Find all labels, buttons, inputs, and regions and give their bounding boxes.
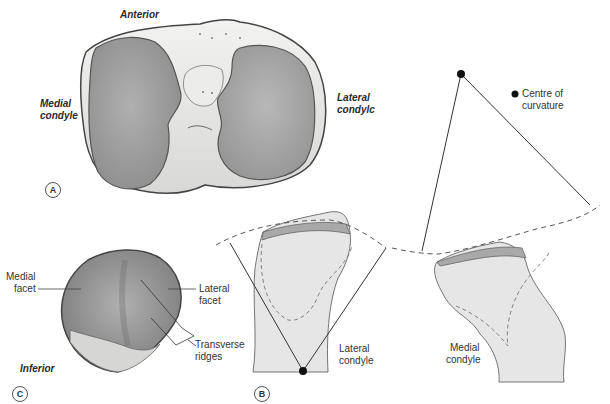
legend-centre-of-curvature-l1: Centre of — [522, 88, 563, 100]
panel-label-c: C — [12, 386, 28, 402]
legend-centre-of-curvature-l2: curvature — [522, 100, 564, 112]
inferior-label: Inferior — [20, 363, 54, 375]
lateral-facet-label-l2: facet — [199, 295, 221, 307]
medial-condyle-sagittal — [392, 70, 600, 382]
medial-condyle-b-label-l2: condyle — [446, 354, 480, 366]
lateral-condyle-b-label-l1: Lateral — [339, 343, 370, 355]
lateral-condyle-label-l1: Lateral — [337, 92, 370, 104]
tibial-plateau-drawing — [81, 20, 326, 194]
medial-condyle-label-l1: Medial — [40, 98, 71, 110]
transverse-ridges-label-l1: Transverse — [195, 339, 245, 351]
transverse-ridges-label-l2: ridges — [195, 351, 222, 363]
medial-condyle-label-l2: condyle — [40, 110, 78, 122]
lateral-condyle-b-label-l2: condyle — [339, 355, 373, 367]
panel-label-a: A — [45, 182, 61, 198]
legend-dot-icon — [512, 91, 519, 98]
centre-of-curvature-apex — [457, 70, 465, 78]
medial-facet-label-l1: Medial — [6, 271, 35, 283]
patella-drawing — [38, 250, 196, 372]
centre-of-curvature-point — [299, 367, 307, 375]
anterior-label: Anterior — [120, 9, 159, 21]
medial-facet-label-l2: facet — [14, 283, 36, 295]
medial-condyle-b-label-l1: Medial — [450, 342, 479, 354]
lateral-condyle-label-l2: condylc — [337, 104, 375, 116]
lateral-facet-label-l1: Lateral — [199, 283, 230, 295]
panel-label-b: B — [254, 386, 270, 402]
knee-anatomy-figure — [0, 0, 610, 404]
